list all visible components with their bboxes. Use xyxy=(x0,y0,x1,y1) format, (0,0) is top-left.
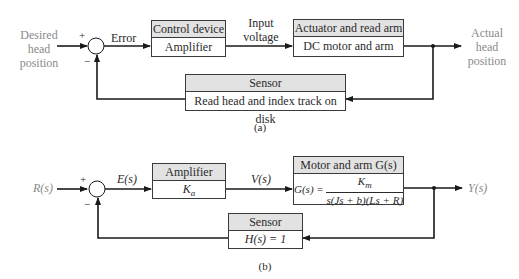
minus-sign-a: − xyxy=(84,55,90,68)
e-of-s-label: E(s) xyxy=(117,173,137,186)
feedback-return-a xyxy=(97,55,185,99)
amplifier-body: Amplifier xyxy=(152,38,225,56)
h-of-s-body: H(s) = 1 xyxy=(229,231,302,248)
actuator-block: Actuator and read arm DC motor and arm xyxy=(293,19,404,57)
actual-head-position-label: Actual head position xyxy=(462,26,512,68)
caption-b: (b) xyxy=(250,260,280,273)
error-label: Error xyxy=(111,32,136,45)
sensor-block-b: Sensor H(s) = 1 xyxy=(228,213,303,249)
control-device-header: Control device xyxy=(152,21,225,38)
branch-point-b xyxy=(432,186,436,190)
transfer-function-fraction: Km s(Js + b)(Ls + R) xyxy=(326,174,403,207)
amplifier-gain: Ka xyxy=(153,181,225,198)
branch-point-a xyxy=(431,44,435,48)
motor-arm-block: Motor and arm G(s) G(s) = Km s(Js + b)(L… xyxy=(293,156,404,205)
input-voltage-label: Input voltage xyxy=(236,16,286,44)
desired-head-position-label: Desired head position xyxy=(14,28,64,70)
summing-junction-a xyxy=(88,38,104,54)
amplifier-block: Amplifier Ka xyxy=(152,163,226,199)
r-of-s-label: R(s) xyxy=(33,182,53,195)
v-of-s-label: V(s) xyxy=(251,173,271,186)
sensor-header-b: Sensor xyxy=(229,214,302,231)
actuator-header: Actuator and read arm xyxy=(294,20,403,37)
denominator: s(Js + b)(Ls + R) xyxy=(326,193,403,207)
dc-motor-body: DC motor and arm xyxy=(294,37,403,56)
motor-arm-header: Motor and arm G(s) xyxy=(294,157,403,174)
caption-a: (a) xyxy=(245,121,275,134)
minus-sign-b: − xyxy=(84,198,90,211)
numerator: Km xyxy=(326,174,403,193)
control-device-block: Control device Amplifier xyxy=(151,20,226,57)
y-of-s-label: Y(s) xyxy=(468,182,487,195)
sensor-header-a: Sensor xyxy=(186,75,345,92)
feedback-return-b xyxy=(98,198,228,238)
sensor-block-a: Sensor Read head and index track on disk xyxy=(185,74,346,111)
transfer-function: G(s) = Km s(Js + b)(Ls + R) xyxy=(294,174,403,204)
read-head-body: Read head and index track on disk xyxy=(186,92,345,110)
plus-sign-b: + xyxy=(80,173,86,186)
plus-sign-a: + xyxy=(79,29,85,42)
amplifier-header: Amplifier xyxy=(153,164,225,181)
summing-junction-b xyxy=(89,181,105,197)
transfer-function-lhs: G(s) = xyxy=(294,183,324,195)
